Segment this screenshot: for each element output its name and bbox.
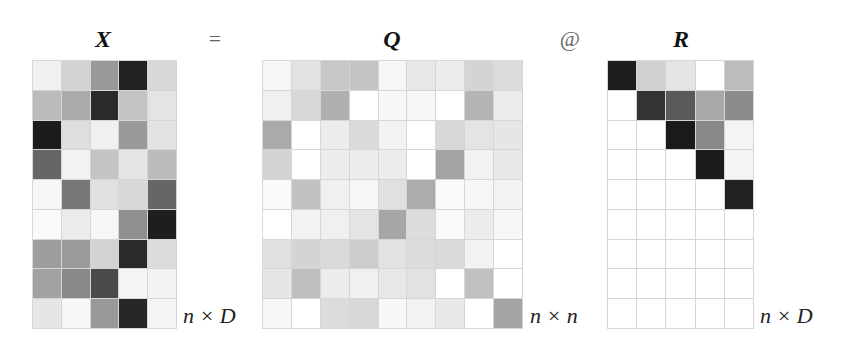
matrix-cell bbox=[119, 210, 148, 240]
matrix-cell bbox=[608, 150, 637, 180]
matrix-cell bbox=[119, 269, 148, 299]
matrix-x-dimension: n × D bbox=[183, 303, 236, 329]
matrix-cell bbox=[407, 240, 436, 270]
matrix-cell bbox=[379, 150, 408, 180]
matrix-cell bbox=[465, 150, 494, 180]
matrix-cell bbox=[62, 269, 91, 299]
matrix-cell bbox=[465, 91, 494, 121]
matrix-cell bbox=[379, 121, 408, 151]
matrix-cell bbox=[494, 150, 523, 180]
matrix-cell bbox=[666, 269, 695, 299]
matrix-cell bbox=[119, 150, 148, 180]
matrix-cell bbox=[321, 91, 350, 121]
matrix-cell bbox=[62, 299, 91, 329]
matrix-cell bbox=[494, 299, 523, 329]
matrix-cell bbox=[465, 121, 494, 151]
matrix-cell bbox=[696, 269, 725, 299]
matmul-operator: @ bbox=[555, 26, 585, 52]
matrix-cell bbox=[494, 210, 523, 240]
matrix-cell bbox=[33, 240, 62, 270]
matrix-cell bbox=[696, 61, 725, 91]
matrix-cell bbox=[62, 91, 91, 121]
matrix-cell bbox=[321, 180, 350, 210]
matrix-cell bbox=[350, 121, 379, 151]
matrix-cell bbox=[465, 210, 494, 240]
matrix-cell bbox=[494, 61, 523, 91]
matrix-cell bbox=[637, 269, 666, 299]
matrix-cell bbox=[696, 91, 725, 121]
matrix-cell bbox=[321, 121, 350, 151]
matrix-cell bbox=[465, 180, 494, 210]
matrix-cell bbox=[436, 91, 465, 121]
matrix-cell bbox=[292, 269, 321, 299]
matrix-cell bbox=[263, 269, 292, 299]
matrix-cell bbox=[436, 240, 465, 270]
matrix-cell bbox=[62, 210, 91, 240]
matrix-cell bbox=[494, 121, 523, 151]
matrix-cell bbox=[637, 61, 666, 91]
matrix-cell bbox=[608, 91, 637, 121]
matrix-cell bbox=[637, 299, 666, 329]
matrix-cell bbox=[436, 121, 465, 151]
matrix-x bbox=[32, 60, 177, 329]
matrix-cell bbox=[436, 180, 465, 210]
matrix-cell bbox=[407, 210, 436, 240]
matrix-cell bbox=[696, 121, 725, 151]
matrix-cell bbox=[148, 121, 177, 151]
matrix-cell bbox=[696, 180, 725, 210]
matrix-cell bbox=[494, 269, 523, 299]
matrix-cell bbox=[91, 61, 120, 91]
matrix-cell bbox=[465, 299, 494, 329]
matrix-cell bbox=[494, 91, 523, 121]
matrix-cell bbox=[292, 240, 321, 270]
matrix-cell bbox=[350, 210, 379, 240]
matrix-cell bbox=[608, 180, 637, 210]
matrix-cell bbox=[494, 180, 523, 210]
matrix-cell bbox=[62, 180, 91, 210]
matrix-cell bbox=[436, 269, 465, 299]
matrix-cell bbox=[263, 150, 292, 180]
matrix-cell bbox=[292, 150, 321, 180]
matrix-cell bbox=[62, 121, 91, 151]
matrix-cell bbox=[119, 61, 148, 91]
matrix-cell bbox=[91, 269, 120, 299]
matrix-cell bbox=[608, 240, 637, 270]
matrix-cell bbox=[666, 240, 695, 270]
matrix-cell bbox=[263, 121, 292, 151]
matrix-cell bbox=[608, 299, 637, 329]
matrix-cell bbox=[696, 150, 725, 180]
matrix-cell bbox=[148, 269, 177, 299]
matrix-cell bbox=[321, 210, 350, 240]
matrix-cell bbox=[407, 269, 436, 299]
matrix-cell bbox=[379, 240, 408, 270]
matrix-cell bbox=[321, 150, 350, 180]
matrix-r bbox=[607, 60, 754, 329]
matrix-cell bbox=[33, 150, 62, 180]
matrix-cell bbox=[725, 91, 754, 121]
matrix-cell bbox=[666, 61, 695, 91]
matrix-cell bbox=[263, 61, 292, 91]
matrix-cell bbox=[666, 121, 695, 151]
matrix-cell bbox=[62, 150, 91, 180]
matrix-cell bbox=[608, 61, 637, 91]
matrix-cell bbox=[666, 299, 695, 329]
matrix-cell bbox=[725, 180, 754, 210]
matrix-cell bbox=[725, 240, 754, 270]
matrix-cell bbox=[666, 91, 695, 121]
matrix-cell bbox=[292, 299, 321, 329]
matrix-cell bbox=[148, 299, 177, 329]
equals-sign: = bbox=[200, 26, 230, 52]
matrix-cell bbox=[379, 210, 408, 240]
matrix-cell bbox=[407, 91, 436, 121]
matrix-cell bbox=[637, 91, 666, 121]
matrix-cell bbox=[666, 180, 695, 210]
matrix-cell bbox=[379, 299, 408, 329]
matrix-cell bbox=[725, 299, 754, 329]
matrix-cell bbox=[608, 269, 637, 299]
matrix-r-dimension: n × D bbox=[760, 303, 813, 329]
matrix-cell bbox=[407, 61, 436, 91]
matrix-cell bbox=[637, 210, 666, 240]
matrix-cell bbox=[119, 299, 148, 329]
matrix-cell bbox=[91, 240, 120, 270]
matrix-cell bbox=[666, 210, 695, 240]
